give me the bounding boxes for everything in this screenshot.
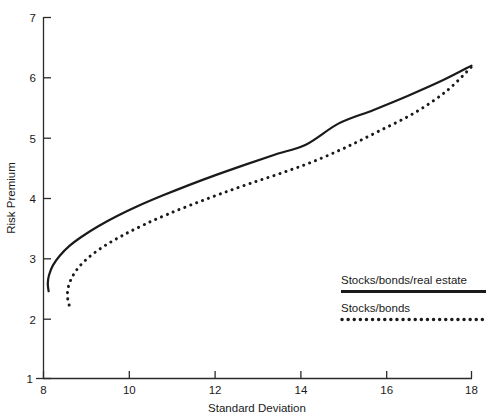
axis-group (43, 17, 472, 379)
y-tick-label-3: 3 (30, 253, 36, 265)
series-group (48, 66, 472, 305)
x-axis-title: Standard Deviation (208, 402, 306, 414)
x-tick-label-12: 12 (209, 384, 222, 396)
y-tick-label-4: 4 (30, 193, 37, 205)
chart-canvas: 7 6 5 4 3 2 1 8 10 12 14 16 18 Standard … (0, 0, 496, 420)
legend-label-0: Stocks/bonds/real estate (341, 274, 467, 286)
x-tick-label-10: 10 (123, 384, 136, 396)
y-tick-label-5: 5 (30, 133, 36, 145)
y-axis-title: Risk Premium (5, 162, 17, 234)
x-tick-labels: 8 10 12 14 16 18 (40, 384, 478, 396)
x-tick-label-14: 14 (295, 384, 308, 396)
series-line-stocks-bonds-real-estate (48, 66, 472, 292)
legend-label-1: Stocks/bonds (341, 302, 410, 314)
x-tick-label-8: 8 (40, 384, 46, 396)
x-tick-label-16: 16 (380, 384, 393, 396)
y-tick-label-7: 7 (30, 12, 36, 24)
y-tick-labels: 7 6 5 4 3 2 1 (27, 12, 37, 386)
y-tick-label-1: 1 (27, 373, 33, 385)
y-tick-label-2: 2 (30, 314, 36, 326)
x-tick-group (44, 371, 472, 379)
x-tick-label-18: 18 (465, 384, 478, 396)
y-tick-label-6: 6 (30, 72, 36, 84)
efficient-frontier-chart: 7 6 5 4 3 2 1 8 10 12 14 16 18 Standard … (0, 0, 496, 420)
series-line-stocks-bonds (67, 67, 471, 305)
legend: Stocks/bonds/real estate Stocks/bonds (341, 274, 486, 320)
